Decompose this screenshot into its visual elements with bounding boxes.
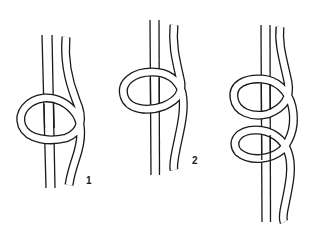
- cord-over-segment: [54, 104, 55, 128]
- cord-over-segment: [44, 104, 45, 128]
- figure-1: [21, 35, 81, 188]
- figure-1-label: 1: [86, 176, 92, 186]
- rope: [123, 25, 183, 170]
- rope: [234, 27, 294, 222]
- standing-cord-left-line: [261, 25, 262, 222]
- knot-diagram: [0, 0, 317, 237]
- figure-2-label: 2: [192, 156, 198, 166]
- figure-2: [123, 20, 183, 175]
- rope: [21, 37, 81, 185]
- standing-cord-right-line: [270, 25, 271, 222]
- figure-3: [234, 25, 294, 222]
